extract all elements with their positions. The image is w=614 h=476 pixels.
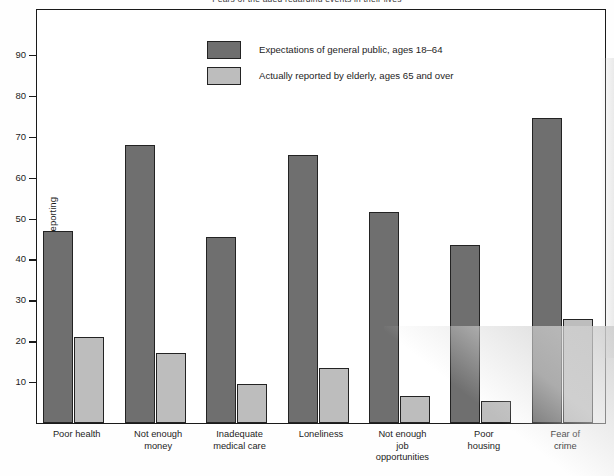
x-axis-category-label-line: opportunities [356,452,449,464]
y-axis-tick-mark [29,300,37,301]
x-axis-category-label-line: Not enough [111,429,204,441]
legend-swatch-icon [207,41,241,59]
x-axis-category-label-line: Fear of [519,429,612,441]
y-axis-tick: 90 [0,55,44,56]
y-axis-tick-mark [29,382,37,383]
y-axis-tick: 20 [0,341,44,342]
y-axis-tick: 80 [0,96,44,97]
bar-reported [319,368,349,423]
y-axis-tick-mark [29,55,37,56]
y-axis-tick-label: 50 [0,213,26,224]
bar-expectations [125,145,155,423]
y-axis-tick-label: 70 [0,131,26,142]
y-axis-tick-mark [29,137,37,138]
bar-reported [237,384,267,423]
bar-expectations [43,231,73,423]
x-axis-category-label: Not enoughjobopportunities [356,429,449,464]
y-axis-tick-label: 90 [0,49,26,60]
bar-reported [481,401,511,423]
x-axis-category-label: Poorhousing [437,429,530,452]
x-axis-category-label-line: job [356,441,449,453]
legend-swatch-icon [207,67,241,85]
y-axis-tick-mark [29,341,37,342]
y-axis-tick: 10 [0,382,44,383]
y-axis-tick: 60 [0,178,44,179]
chart-title: Fears of the aged regarding events in th… [0,0,614,2]
bar-expectations [288,155,318,423]
x-axis-category-label-line: money [111,441,204,453]
y-axis-tick-label: 30 [0,294,26,305]
legend-label: Expectations of general public, ages 18–… [259,44,442,55]
bar-reported [400,396,430,423]
chart-page: Fears of the aged regarding events in th… [0,0,614,476]
bar-reported [74,337,104,423]
bar-expectations [369,212,399,423]
x-axis-category-label-line: medical care [193,441,286,453]
y-axis-tick: 50 [0,219,44,220]
x-axis-category-label: Fear ofcrime [519,429,612,452]
x-axis-category-label-line: Inadequate [193,429,286,441]
x-axis-category-label-line: Not enough [356,429,449,441]
x-axis-category-label-line: crime [519,441,612,453]
y-axis-tick: 40 [0,259,44,260]
y-axis-tick-mark [29,178,37,179]
y-axis-tick: 70 [0,137,44,138]
bar-expectations [206,237,236,423]
legend-item: Actually reported by elderly, ages 65 an… [207,67,507,93]
bar-expectations [532,118,562,423]
legend-item: Expectations of general public, ages 18–… [207,41,507,67]
y-axis-tick: 30 [0,300,44,301]
y-axis-tick-label: 40 [0,253,26,264]
x-axis-category-label-line: Poor [437,429,530,441]
x-axis-category-label-line: Poor health [30,429,123,441]
y-axis-tick-label: 10 [0,376,26,387]
legend: Expectations of general public, ages 18–… [207,41,507,93]
bar-reported [156,353,186,423]
y-axis-tick-mark [29,259,37,260]
y-axis-tick-mark [29,219,37,220]
x-axis-category-label-line: housing [437,441,530,453]
y-axis-tick-label: 80 [0,90,26,101]
x-axis-category-label-line: Loneliness [274,429,367,441]
x-axis-category-label: Loneliness [274,429,367,441]
bar-expectations [450,245,480,423]
bar-reported [563,319,593,423]
y-axis-tick-label: 20 [0,335,26,346]
y-axis-tick-label: 60 [0,172,26,183]
y-axis-tick-mark [29,96,37,97]
x-axis-category-label: Poor health [30,429,123,441]
x-axis-category-label: Inadequatemedical care [193,429,286,452]
x-axis-category-label: Not enoughmoney [111,429,204,452]
legend-label: Actually reported by elderly, ages 65 an… [259,70,453,81]
